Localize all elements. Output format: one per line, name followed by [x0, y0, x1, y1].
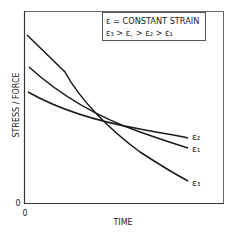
y-axis-label: STRESS / FORCE [12, 72, 21, 137]
label-epsilon-2: ε₂ [192, 132, 201, 142]
stress-relaxation-chart: ε = CONSTANT STRAIN ε₃ > ε꜀ > ε₂ > ε₁ ε₂… [0, 0, 233, 233]
x-axis-label: TIME [112, 218, 132, 227]
curve-epsilon-1 [29, 67, 188, 148]
curve-epsilon-3 [27, 35, 188, 181]
legend-line-2: ε₃ > ε꜀ > ε₂ > ε₁ [106, 28, 173, 38]
label-epsilon-1: ε₁ [192, 144, 201, 154]
x-origin-label: 0 [22, 209, 27, 218]
y-origin-label: 0 [15, 199, 20, 208]
legend-line-1: ε = CONSTANT STRAIN [106, 16, 199, 26]
curve-epsilon-2 [28, 92, 188, 138]
label-epsilon-3: ε₃ [192, 178, 201, 188]
